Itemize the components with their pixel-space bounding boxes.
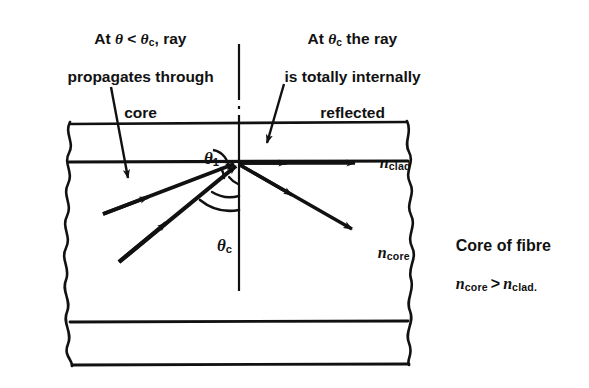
n-core-label: ncore xyxy=(360,225,410,282)
theta-inner-arc xyxy=(229,177,238,184)
right-note-line1: At θc the ray xyxy=(307,30,397,47)
left-note-line2: propagates through xyxy=(67,68,213,85)
theta-c-arc xyxy=(200,200,239,211)
shallow-incident-ray-arrow-mid xyxy=(103,197,148,214)
fibre-bottom-edge xyxy=(72,364,409,365)
right-note-line3: reflected xyxy=(320,104,385,121)
steep-incident-ray-arrow-mid xyxy=(119,223,166,262)
right-note: At θc the ray is totally internally refl… xyxy=(252,12,436,141)
left-note-line1: At θ < θc, ray xyxy=(94,30,186,47)
side-note-line1: Core of fibre xyxy=(456,237,551,254)
theta-c-label: θc xyxy=(198,216,232,277)
left-note-line3: core xyxy=(124,104,157,121)
theta-mid-arc xyxy=(212,192,239,197)
figure-canvas: At θ < θc, ray propagates through core A… xyxy=(0,0,589,388)
left-note: At θ < θc, ray propagates through core xyxy=(36,12,228,141)
side-note: Core of fibre ncore>nclad. xyxy=(438,218,586,312)
theta-one-label: θ1 xyxy=(185,129,219,190)
left-torn-edge xyxy=(64,122,72,366)
lower-core-clad-interface xyxy=(70,321,408,322)
right-note-line2: is totally internally xyxy=(285,68,421,85)
side-note-line2: ncore>nclad. xyxy=(456,275,537,292)
transmitted-ray-arrow-mid xyxy=(240,165,292,195)
n-clad-label: nclad xyxy=(362,135,411,192)
